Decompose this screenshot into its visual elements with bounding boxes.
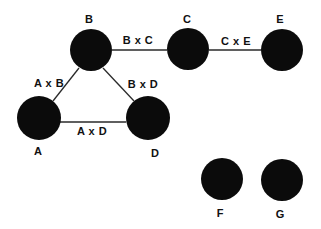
node-label-f: F bbox=[217, 207, 224, 219]
graph-canvas: B x CC x EA x BB x DA x DABCDEFG bbox=[0, 0, 321, 229]
node-f bbox=[201, 158, 243, 200]
edge-label-a-b: A x B bbox=[34, 77, 64, 89]
node-a bbox=[17, 96, 61, 140]
node-label-b: B bbox=[85, 13, 93, 25]
node-g bbox=[261, 159, 303, 201]
node-e bbox=[261, 29, 303, 71]
edge-label-b-c: B x C bbox=[123, 34, 154, 46]
edge-label-c-e: C x E bbox=[221, 35, 251, 47]
nodes-layer bbox=[17, 28, 303, 201]
node-d bbox=[126, 96, 170, 140]
node-label-c: C bbox=[183, 13, 191, 25]
node-b bbox=[70, 29, 112, 71]
node-label-d: D bbox=[151, 147, 159, 159]
graph-diagram: B x CC x EA x BB x DA x DABCDEFG bbox=[0, 0, 321, 229]
node-c bbox=[167, 28, 209, 70]
node-label-g: G bbox=[276, 208, 285, 220]
node-label-e: E bbox=[276, 13, 283, 25]
edge-label-a-d: A x D bbox=[77, 125, 107, 137]
node-label-a: A bbox=[34, 145, 42, 157]
edge-label-b-d: B x D bbox=[128, 78, 159, 90]
